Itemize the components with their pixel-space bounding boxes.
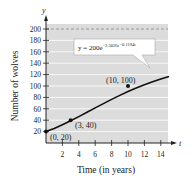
y-tick-label: 160 xyxy=(30,48,42,57)
y-tick-label: 60 xyxy=(34,105,42,114)
data-point xyxy=(44,130,48,134)
y-tick-label: 120 xyxy=(30,70,42,79)
y-axis-label: Number of wolves xyxy=(10,50,20,121)
y-tick-label: 180 xyxy=(30,36,42,45)
y-axis-arrow-icon xyxy=(44,15,48,21)
x-axis-arrow-icon xyxy=(171,141,177,145)
x-axis-label: Time (in years) xyxy=(77,165,135,176)
y-tick-label: 200 xyxy=(30,25,42,34)
y-axis-symbol: y xyxy=(41,6,46,15)
x-tick-label: 12 xyxy=(141,150,149,159)
x-axis-symbol: t xyxy=(179,139,182,148)
x-tick-label: 6 xyxy=(93,150,97,159)
point-label: (0, 20) xyxy=(50,133,72,142)
y-tick-label: 80 xyxy=(34,93,42,102)
y-tick-label: 20 xyxy=(34,127,42,136)
point-label: (10, 100) xyxy=(106,76,136,85)
y-tick-label: 100 xyxy=(30,82,42,91)
x-tick-label: 14 xyxy=(157,150,165,159)
y-tick-label: 40 xyxy=(34,116,42,125)
y-tick-label: 140 xyxy=(30,59,42,68)
point-label: (3, 40) xyxy=(75,121,97,130)
x-tick-label: 8 xyxy=(110,150,114,159)
wolf-population-chart: 20 40 60 80 100 120 140 160 180 200 2 4 … xyxy=(0,0,193,183)
x-tick-label: 2 xyxy=(61,150,65,159)
x-tick-label: 10 xyxy=(124,150,132,159)
data-point xyxy=(69,118,73,122)
x-tick-label: 4 xyxy=(77,150,81,159)
